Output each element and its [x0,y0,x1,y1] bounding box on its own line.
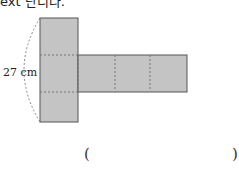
answer-open-paren: ( [84,145,90,163]
cube-net-figure [0,0,239,170]
net-column [40,18,78,122]
net-arm [78,55,187,92]
answer-close-paren: ) [232,145,238,163]
dimension-label: 27 cm [3,66,37,79]
